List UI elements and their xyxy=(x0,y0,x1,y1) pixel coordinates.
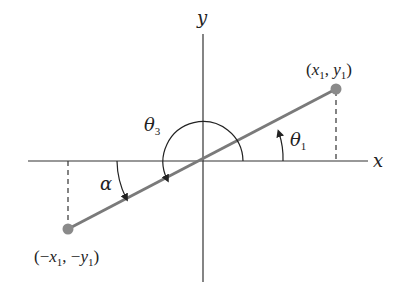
segment-line xyxy=(68,89,336,229)
point-neg-x1-neg-y1 xyxy=(63,224,74,235)
x-axis-label: x xyxy=(373,150,383,171)
label-neg-x1-neg-y1: (−x1, −y1) xyxy=(34,247,99,268)
theta1-label: θ1 xyxy=(290,129,306,152)
alpha-label: α xyxy=(100,173,112,194)
angle-diagram: y x (x1, y1) (−x1, −y1) θ3 θ1 α xyxy=(0,0,397,299)
y-axis-label: y xyxy=(196,7,208,28)
alpha-arc xyxy=(117,161,126,198)
point-x1-y1 xyxy=(331,84,342,95)
theta1-arc xyxy=(279,133,283,161)
theta3-label: θ3 xyxy=(144,114,161,137)
label-x1-y1: (x1, y1) xyxy=(306,60,352,81)
